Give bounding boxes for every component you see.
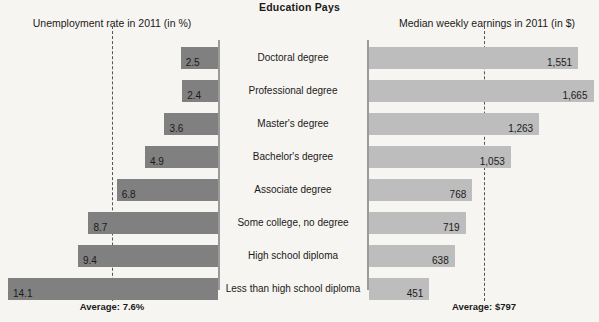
unemployment-bar[interactable]: 4.9 [145, 146, 218, 168]
chart-row: 2.4Professional degree1,665 [0, 75, 599, 108]
chart-canvas: Education Pays Unemployment rate in 2011… [0, 0, 599, 322]
unemployment-value-label: 14.1 [8, 283, 32, 305]
chart-row: 8.7Some college, no degree719 [0, 207, 599, 240]
chart-row: 4.9Bachelor's degree1,053 [0, 141, 599, 174]
chart-row: 3.6Master's degree1,263 [0, 108, 599, 141]
unemployment-value-label: 2.5 [181, 52, 200, 74]
right-panel-title: Median weekly earnings in 2011 (in $) [382, 17, 592, 29]
earnings-value-label: 719 [443, 217, 466, 239]
earnings-bar[interactable]: 638 [369, 245, 455, 267]
category-label: Doctoral degree [219, 47, 367, 69]
unemployment-value-label: 4.9 [145, 151, 164, 173]
unemployment-value-label: 8.7 [88, 217, 107, 239]
earnings-bar[interactable]: 451 [369, 278, 430, 300]
chart-row: 9.4High school diploma638 [0, 240, 599, 273]
category-label: Less than high school diploma [206, 278, 380, 300]
unemployment-bar[interactable]: 2.5 [181, 47, 218, 69]
unemployment-bar[interactable]: 8.7 [88, 212, 218, 234]
chart-title: Education Pays [0, 1, 599, 13]
chart-row: 14.1Less than high school diploma451 [0, 273, 599, 306]
unemployment-bar[interactable]: 14.1 [8, 278, 218, 300]
earnings-value-label: 1,665 [562, 85, 593, 107]
earnings-bar[interactable]: 719 [369, 212, 466, 234]
chart-row: 2.5Doctoral degree1,551 [0, 42, 599, 75]
earnings-bar[interactable]: 1,053 [369, 146, 511, 168]
unemployment-value-label: 9.4 [78, 250, 97, 272]
earnings-bar[interactable]: 1,263 [369, 113, 540, 135]
earnings-bar[interactable]: 1,665 [369, 80, 594, 102]
category-label: Associate degree [219, 179, 367, 201]
unemployment-value-label: 3.6 [164, 118, 183, 140]
category-label: High school diploma [219, 245, 367, 267]
unemployment-value-label: 2.4 [182, 85, 201, 107]
earnings-bar[interactable]: 768 [369, 179, 473, 201]
category-label: Some college, no degree [219, 212, 367, 234]
earnings-value-label: 1,263 [508, 118, 539, 140]
category-label: Bachelor's degree [219, 146, 367, 168]
category-label: Professional degree [219, 80, 367, 102]
unemployment-bar[interactable]: 6.8 [117, 179, 218, 201]
earnings-value-label: 1,551 [547, 52, 578, 74]
earnings-bar[interactable]: 1,551 [369, 47, 579, 69]
unemployment-bar[interactable]: 9.4 [78, 245, 218, 267]
unemployment-value-label: 6.8 [117, 184, 136, 206]
earnings-value-label: 638 [432, 250, 455, 272]
unemployment-bar[interactable]: 3.6 [164, 113, 218, 135]
chart-row: 6.8Associate degree768 [0, 174, 599, 207]
category-label: Master's degree [219, 113, 367, 135]
earnings-value-label: 451 [407, 283, 430, 305]
earnings-value-label: 1,053 [480, 151, 511, 173]
unemployment-bar[interactable]: 2.4 [182, 80, 218, 102]
earnings-value-label: 768 [450, 184, 473, 206]
